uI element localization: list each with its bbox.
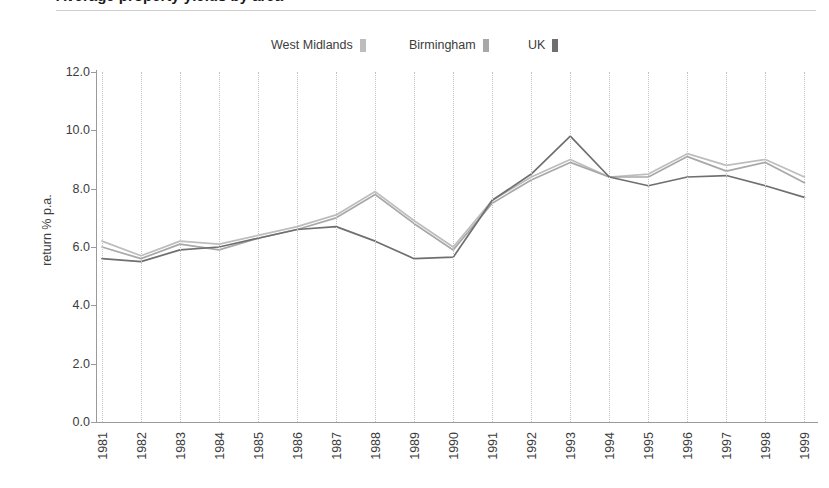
legend-swatch-uk	[552, 39, 558, 52]
x-tick-label: 1981	[96, 432, 110, 460]
gridline-vertical	[531, 72, 532, 422]
legend-item-uk: UK	[528, 38, 558, 52]
y-tick-mark	[91, 130, 96, 131]
y-tick-label: 10.0	[32, 123, 90, 137]
gridline-vertical	[765, 72, 766, 422]
x-tick-label: 1988	[369, 432, 383, 460]
chart-legend: West Midlands Birmingham UK	[0, 38, 829, 58]
legend-label: UK	[528, 38, 545, 52]
x-tick-label: 1996	[681, 432, 695, 460]
gridline-vertical	[141, 72, 142, 422]
y-tick-label: 8.0	[32, 182, 90, 196]
x-tick-label: 1990	[447, 432, 461, 460]
x-tick-label: 1995	[642, 432, 656, 460]
y-axis-title: return % p.a.	[40, 194, 54, 266]
x-tick-label: 1987	[330, 432, 344, 460]
legend-label: West Midlands	[271, 38, 353, 52]
y-tick-mark	[91, 422, 96, 423]
y-tick-mark	[91, 364, 96, 365]
x-tick-label: 1985	[252, 432, 266, 460]
gridline-vertical	[336, 72, 337, 422]
x-tick-label: 1994	[603, 432, 617, 460]
chart-container: Average property yields by area West Mid…	[0, 0, 829, 488]
y-tick-label: 6.0	[32, 240, 90, 254]
gridline-vertical	[297, 72, 298, 422]
gridline-vertical	[102, 72, 103, 422]
page-title-strip: Average property yields by area	[0, 0, 829, 9]
legend-item-west-midlands: West Midlands	[271, 38, 366, 52]
gridline-vertical	[648, 72, 649, 422]
gridline-vertical	[180, 72, 181, 422]
gridline-vertical	[609, 72, 610, 422]
gridline-vertical	[570, 72, 571, 422]
legend-item-birmingham: Birmingham	[409, 38, 489, 52]
legend-swatch-west-midlands	[360, 39, 366, 52]
legend-label: Birmingham	[409, 38, 476, 52]
x-tick-label: 1997	[720, 432, 734, 460]
gridline-vertical	[453, 72, 454, 422]
y-tick-label: 0.0	[32, 415, 90, 429]
gridline-vertical	[804, 72, 805, 422]
x-tick-label: 1992	[525, 432, 539, 460]
y-tick-label: 2.0	[32, 357, 90, 371]
gridline-vertical	[687, 72, 688, 422]
y-tick-mark	[91, 189, 96, 190]
x-tick-label: 1984	[213, 432, 227, 460]
x-tick-label: 1998	[759, 432, 773, 460]
gridline-vertical	[258, 72, 259, 422]
gridline-vertical	[414, 72, 415, 422]
page-title: Average property yields by area	[56, 0, 283, 4]
x-axis-line	[96, 422, 818, 423]
y-tick-mark	[91, 72, 96, 73]
gridline-vertical	[492, 72, 493, 422]
gridline-vertical	[219, 72, 220, 422]
gridline-vertical	[375, 72, 376, 422]
x-tick-label: 1982	[135, 432, 149, 460]
y-tick-label: 12.0	[32, 65, 90, 79]
legend-swatch-birmingham	[483, 39, 489, 52]
x-tick-label: 1991	[486, 432, 500, 460]
x-tick-label: 1986	[291, 432, 305, 460]
title-divider	[56, 10, 816, 11]
gridline-vertical	[726, 72, 727, 422]
x-tick-label: 1989	[408, 432, 422, 460]
series-lines	[96, 72, 816, 422]
x-tick-label: 1983	[174, 432, 188, 460]
y-tick-mark	[91, 305, 96, 306]
plot-area	[96, 72, 816, 422]
y-tick-label: 4.0	[32, 298, 90, 312]
x-tick-label: 1993	[564, 432, 578, 460]
y-tick-mark	[91, 247, 96, 248]
x-tick-label: 1999	[798, 432, 812, 460]
